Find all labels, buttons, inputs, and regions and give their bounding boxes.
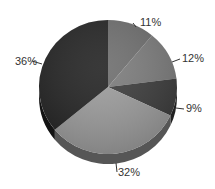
leader-line <box>116 163 117 172</box>
pie-chart: 11%12%9%32%36% <box>0 0 215 189</box>
slice-label: 12% <box>182 52 204 64</box>
slice-label: 11% <box>140 16 161 28</box>
slice-label: 9% <box>186 102 202 114</box>
pie-slices <box>39 20 177 154</box>
slice-label: 36% <box>15 55 37 67</box>
slice-label: 32% <box>118 166 140 178</box>
leader-line <box>172 59 180 62</box>
leader-line <box>176 108 184 109</box>
